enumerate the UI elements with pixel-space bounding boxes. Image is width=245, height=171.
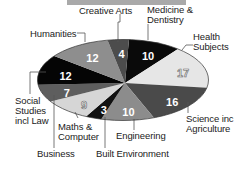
label-science-agriculture: Science inc Agriculture bbox=[186, 114, 233, 134]
slice-value: 4 bbox=[119, 48, 126, 60]
label-engineering: Engineering bbox=[116, 131, 166, 141]
slice-value: 10 bbox=[142, 50, 154, 62]
label-humanities: Humanities bbox=[30, 29, 77, 39]
leader-health bbox=[182, 45, 193, 50]
label-health-subjects: Health Subjects bbox=[193, 32, 229, 52]
slice-value: 16 bbox=[166, 96, 178, 108]
slice-value: 12 bbox=[86, 52, 98, 64]
slice-value: 3 bbox=[101, 104, 107, 116]
label-built-environment: Built Environment bbox=[96, 149, 169, 159]
label-creative-arts: Creative Arts bbox=[79, 6, 132, 16]
pie-chart: 1017161039712124 bbox=[0, 0, 245, 171]
label-business: Business bbox=[37, 149, 75, 159]
slice-value: 9 bbox=[81, 99, 87, 111]
slice-value: 12 bbox=[59, 70, 71, 82]
slice-value: 7 bbox=[64, 87, 70, 99]
leader-creative-arts bbox=[118, 14, 120, 42]
leader-humanities bbox=[77, 33, 85, 42]
label-maths-computer: Maths & Computer bbox=[58, 122, 99, 142]
label-medicine-dentistry: Medicine & Dentistry bbox=[147, 5, 193, 25]
slice-value: 17 bbox=[177, 67, 189, 79]
label-social-studies: Social Studies incl Law bbox=[15, 96, 49, 126]
slice-value: 10 bbox=[122, 106, 134, 118]
